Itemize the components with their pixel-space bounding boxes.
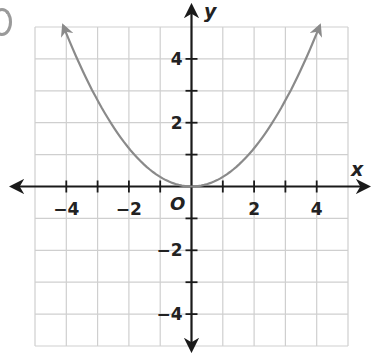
y-tick-label: 4 bbox=[171, 49, 183, 69]
y-tick-label: −2 bbox=[156, 240, 182, 260]
x-tick-label: −2 bbox=[116, 199, 142, 219]
axes bbox=[12, 6, 368, 350]
origin-label: O bbox=[170, 193, 185, 214]
x-axis-label: x bbox=[350, 158, 364, 180]
y-tick-label: 2 bbox=[171, 113, 183, 133]
x-tick-label: −4 bbox=[53, 199, 79, 219]
y-tick-label: −4 bbox=[156, 304, 182, 324]
x-tick-label: 2 bbox=[248, 199, 260, 219]
y-axis-label: y bbox=[204, 0, 218, 22]
coordinate-plane: −4−22442−2−4 x y O bbox=[0, 0, 376, 364]
x-tick-label: 4 bbox=[311, 199, 323, 219]
